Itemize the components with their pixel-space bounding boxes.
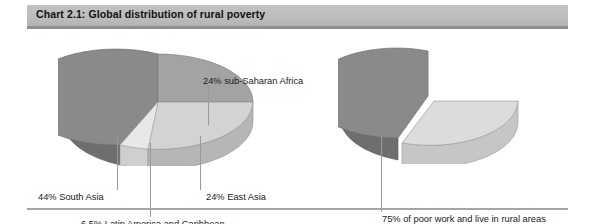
chart-title: Chart 2.1: Global distribution of rural …: [36, 8, 265, 20]
chart-title-band-shadow: [27, 26, 568, 29]
pie-chart-rural-poverty-distribution: [58, 46, 258, 166]
pie-chart-rural-share: [338, 44, 528, 164]
label-rural-areas: 75% of poor work and live in rural areas: [382, 215, 546, 224]
leader-line-latin-america: [150, 143, 151, 217]
figure-bottom-rule: [27, 208, 568, 210]
pie-left-svg: [58, 46, 258, 166]
label-south-asia: 44% South Asia: [38, 193, 104, 202]
pie-right-svg: [338, 44, 528, 164]
leader-line-east-asia: [200, 136, 201, 190]
figure-area: 24% sub-Saharan Africa 44% South Asia 24…: [0, 30, 593, 198]
leader-line-sub-saharan-africa: [208, 86, 209, 125]
segment-rural-top: [338, 48, 428, 138]
label-latin-america: 6.5% Latin America and Caribbean: [81, 220, 225, 224]
label-east-asia: 24% East Asia: [206, 193, 266, 202]
label-sub-saharan-africa: 24% sub-Saharan Africa: [203, 77, 303, 86]
leader-line-rural-areas: [381, 136, 382, 212]
leader-line-south-asia: [117, 134, 118, 190]
